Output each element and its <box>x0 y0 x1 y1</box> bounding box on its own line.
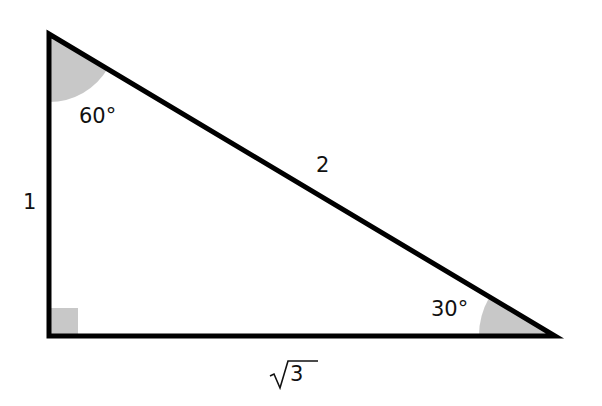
label-base-radicand: 3 <box>290 364 303 385</box>
label-base: 3 <box>268 356 328 392</box>
label-hypotenuse: 2 <box>316 155 329 176</box>
triangle <box>49 34 555 336</box>
label-far-angle: 30° <box>431 299 468 320</box>
angle-60-marker <box>49 34 108 102</box>
label-top-angle: 60° <box>79 106 116 127</box>
right-angle-marker <box>49 308 78 336</box>
triangle-diagram <box>0 0 602 406</box>
label-vertical-side: 1 <box>23 192 36 213</box>
